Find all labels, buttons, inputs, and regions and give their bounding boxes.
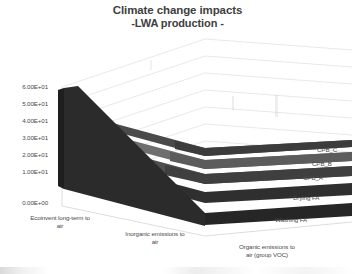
scan-artifacts bbox=[150, 60, 278, 117]
category-label-inorganic-line2: air bbox=[105, 238, 205, 246]
category-label-ecoinvent: Ecoinvent long-term to air bbox=[10, 214, 110, 231]
y-tick-label-6e1: 6.00E+01 bbox=[2, 83, 48, 90]
series-label-cpb-b: CPB_B bbox=[312, 160, 332, 167]
series-label-washing-fa: Washing FA bbox=[275, 216, 307, 223]
chart-container: Climate change impacts -LWA production - bbox=[0, 0, 355, 274]
category-label-ecoinvent-line2: air bbox=[10, 222, 110, 230]
y-tick-label-3e1: 3.00E+01 bbox=[2, 134, 48, 141]
y-tick-label-0e0: 0.00E+00 bbox=[2, 199, 48, 206]
y-tick-label-1e1: 1.00E+01 bbox=[2, 168, 48, 175]
y-tick-label-4e1: 4.00E+01 bbox=[2, 117, 48, 124]
series-label-cpb-a: CPB_A bbox=[303, 174, 323, 181]
series-label-cpb-c: CPB_C bbox=[317, 146, 337, 153]
series-label-drying-fa: Drying FA bbox=[293, 194, 319, 201]
category-label-ecoinvent-line1: Ecoinvent long-term to bbox=[10, 214, 110, 222]
scan-noise-strip bbox=[0, 267, 355, 274]
category-label-organic-line1: Organic emissions to bbox=[212, 243, 322, 251]
category-label-inorganic-line1: Inorganic emissions to bbox=[105, 230, 205, 238]
y-tick-label-5e1: 5.00E+01 bbox=[2, 100, 48, 107]
category-label-inorganic: Inorganic emissions to air bbox=[105, 230, 205, 247]
y-tick-label-2e1: 2.00E+01 bbox=[2, 151, 48, 158]
category-label-organic: Organic emissions to air (group VOC) bbox=[212, 243, 322, 260]
category-label-organic-line2: air (group VOC) bbox=[212, 251, 322, 259]
